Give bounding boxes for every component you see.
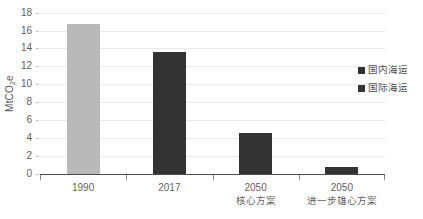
x-axis-tick-mark	[213, 175, 214, 180]
y-axis-tick-mark	[36, 31, 39, 32]
y-axis-tick-mark	[36, 174, 39, 175]
bar	[153, 52, 186, 174]
x-axis-tick-mark	[384, 175, 385, 180]
y-axis-tick-label: 0	[26, 169, 32, 179]
x-axis-tick-label: 2050核心方案	[213, 181, 299, 207]
bar-chart: MtCO2e 024681012141618 199020172050核心方案2…	[0, 0, 423, 219]
x-axis-tick-mark	[299, 175, 300, 180]
x-axis-tick-label: 2050进一步雄心方案	[299, 181, 385, 207]
y-axis-tick-labels: 024681012141618	[0, 13, 36, 174]
bar	[67, 24, 100, 173]
legend-label: 国际海运	[368, 82, 408, 94]
legend-item[interactable]: 国际海运	[358, 80, 423, 96]
y-axis-tick-label: 6	[26, 115, 32, 125]
bar-series	[40, 13, 385, 174]
y-axis-tick-mark	[36, 84, 39, 85]
y-axis-tick-label: 14	[21, 43, 32, 53]
x-axis-tick-mark	[40, 175, 41, 180]
x-axis-tick-label: 2017	[126, 181, 212, 194]
y-axis-tick-label: 2	[26, 151, 32, 161]
x-axis-tick-label-year: 2050	[331, 182, 353, 193]
y-axis-tick-label: 8	[26, 97, 32, 107]
x-axis-tick-mark	[126, 175, 127, 180]
x-axis-tick-label-year: 1990	[72, 182, 94, 193]
legend-label: 国内海运	[368, 64, 408, 76]
y-axis-tick-mark	[36, 102, 39, 103]
legend-swatch-icon	[358, 67, 365, 74]
plot-area	[40, 13, 385, 174]
y-axis-tick-mark	[36, 156, 39, 157]
x-axis-tick-label-scenario: 核心方案	[213, 194, 299, 207]
y-axis-tick-mark	[36, 66, 39, 67]
y-axis-tick-label: 10	[21, 79, 32, 89]
legend-item[interactable]: 国内海运	[358, 62, 423, 78]
chart-legend: 国内海运国际海运	[358, 62, 423, 98]
bar	[239, 133, 272, 174]
x-axis-ticks	[40, 175, 385, 180]
y-axis-tick-mark	[36, 13, 39, 14]
y-axis-tick-mark	[36, 48, 39, 49]
x-axis-tick-label: 1990	[40, 181, 126, 194]
x-axis-tick-labels: 199020172050核心方案2050进一步雄心方案	[40, 181, 385, 217]
y-axis-tick-label: 4	[26, 133, 32, 143]
y-axis-tick-label: 12	[21, 61, 32, 71]
x-axis-tick-label-year: 2017	[158, 182, 180, 193]
y-axis-tick-label: 18	[21, 8, 32, 18]
y-axis-tick-label: 16	[21, 26, 32, 36]
x-axis-tick-label-scenario: 进一步雄心方案	[299, 194, 385, 207]
x-axis-tick-label-year: 2050	[245, 182, 267, 193]
y-axis-tick-mark	[36, 138, 39, 139]
y-axis-tick-mark	[36, 120, 39, 121]
legend-swatch-icon	[358, 85, 365, 92]
